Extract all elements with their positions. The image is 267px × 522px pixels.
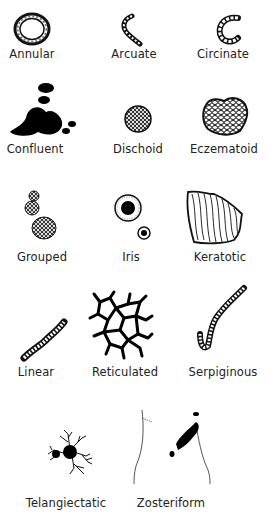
annular-ring-icon	[12, 12, 52, 46]
eczematoid-patch-icon	[200, 95, 250, 137]
label-zosteriform: Zosteriform	[137, 496, 205, 510]
circinate-c-icon	[214, 14, 244, 46]
grouped-clusters-icon	[24, 188, 58, 242]
label-confluent: Confluent	[7, 142, 64, 156]
label-eczematoid: Eczematoid	[190, 142, 258, 156]
serpiginous-snake-icon	[194, 284, 250, 352]
label-linear: Linear	[18, 365, 54, 379]
zosteriform-torso-icon	[130, 408, 214, 484]
label-telangiectatic: Telangiectatic	[26, 496, 107, 510]
dischoid-disc-icon	[123, 104, 153, 134]
label-dischoid: Dischoid	[113, 142, 163, 156]
keratotic-plaque-icon	[184, 188, 246, 246]
label-serpiginous: Serpiginous	[189, 365, 258, 379]
label-grouped: Grouped	[17, 250, 67, 264]
telangiectatic-spider-icon	[46, 428, 96, 478]
label-annular: Annular	[9, 47, 54, 61]
reticulated-net-icon	[88, 290, 154, 360]
arcuate-arc-icon	[118, 14, 148, 46]
iris-target-icon	[112, 190, 156, 244]
label-reticulated: Reticulated	[92, 365, 158, 379]
label-iris: Iris	[122, 250, 140, 264]
label-circinate: Circinate	[197, 47, 249, 61]
label-arcuate: Arcuate	[111, 47, 156, 61]
confluent-blotch-icon	[6, 78, 76, 140]
label-keratotic: Keratotic	[194, 250, 246, 264]
linear-band-icon	[20, 316, 68, 364]
